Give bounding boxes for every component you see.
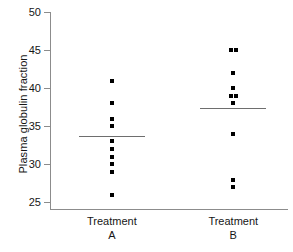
y-axis-line: [50, 12, 51, 210]
data-point: [234, 94, 238, 98]
data-point: [110, 170, 114, 174]
x-label-line1: Treatment: [208, 215, 258, 227]
y-tick-label: 25: [29, 196, 41, 208]
x-axis-label-b: TreatmentB: [173, 214, 293, 242]
x-axis-label-a: TreatmentA: [52, 214, 172, 242]
data-point: [231, 71, 235, 75]
data-point: [110, 117, 114, 121]
y-tick-label: 50: [29, 6, 41, 18]
data-point: [231, 101, 235, 105]
data-point: [231, 185, 235, 189]
y-tick-mark: [44, 126, 50, 127]
y-tick-label: 45: [29, 44, 41, 56]
data-point: [110, 147, 114, 151]
y-tick-mark: [44, 50, 50, 51]
x-label-line2: B: [173, 228, 293, 242]
y-tick-mark: [44, 202, 50, 203]
data-point: [110, 139, 114, 143]
data-point: [110, 155, 114, 159]
plot-area: 253035404550 TreatmentATreatmentB: [50, 12, 288, 210]
x-label-line2: A: [52, 228, 172, 242]
mean-line: [200, 108, 266, 109]
data-point: [231, 86, 235, 90]
data-point: [110, 162, 114, 166]
y-axis-title: Plasma globulin fraction: [17, 29, 29, 199]
x-label-line1: Treatment: [87, 215, 137, 227]
data-point: [231, 132, 235, 136]
data-point: [110, 124, 114, 128]
y-tick-mark: [44, 164, 50, 165]
data-point: [234, 48, 238, 52]
data-point: [231, 178, 235, 182]
y-tick-label: 35: [29, 120, 41, 132]
y-tick-mark: [44, 12, 50, 13]
data-point: [110, 79, 114, 83]
y-tick-label: 40: [29, 82, 41, 94]
y-tick-label: 30: [29, 158, 41, 170]
data-point: [110, 193, 114, 197]
scatter-dotplot-figure: Plasma globulin fraction 253035404550 Tr…: [0, 0, 293, 252]
data-point: [110, 101, 114, 105]
data-point: [229, 48, 233, 52]
mean-line: [79, 136, 145, 137]
x-axis-line: [50, 209, 288, 210]
data-point: [229, 94, 233, 98]
y-tick-mark: [44, 88, 50, 89]
